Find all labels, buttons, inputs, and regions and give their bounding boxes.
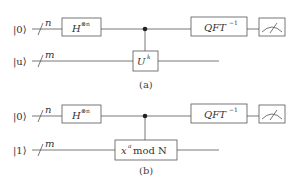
input-state-u-a: |u⟩ [13, 56, 27, 68]
unitary-gate-a: U [137, 56, 146, 67]
input-state-0-a: |0⟩ [13, 24, 27, 36]
hadamard-sup-a: ⊗n [81, 20, 90, 27]
input-state-1-b: |1⟩ [13, 145, 27, 157]
modexp-sup-b: a [128, 142, 132, 149]
modexp-gate-b: x [121, 145, 127, 156]
qft-gate-b: QFT [204, 109, 227, 120]
circuit-diagram: |0⟩ |u⟩ n m H ⊗n U k QFT −1 (a) |0⟩ |1⟩ … [0, 0, 301, 183]
qft-sup-a: −1 [229, 19, 238, 26]
register-n-b: n [45, 104, 51, 115]
register-m-a: m [45, 49, 54, 60]
hadamard-gate-b: H [71, 110, 81, 121]
caption-a: (a) [139, 79, 153, 90]
hadamard-gate-a: H [71, 23, 81, 34]
control-dot-b [143, 114, 148, 119]
control-dot-a [143, 27, 148, 32]
register-m-b: m [45, 138, 54, 149]
hadamard-sup-b: ⊗n [81, 107, 90, 114]
input-state-0-b: |0⟩ [13, 111, 27, 123]
qft-sup-b: −1 [229, 106, 238, 113]
register-n-a: n [45, 17, 51, 28]
unitary-sup-a: k [147, 53, 151, 60]
modexp-mod-b: mod N [133, 145, 167, 156]
caption-b: (b) [139, 165, 153, 176]
qft-gate-a: QFT [204, 22, 227, 33]
